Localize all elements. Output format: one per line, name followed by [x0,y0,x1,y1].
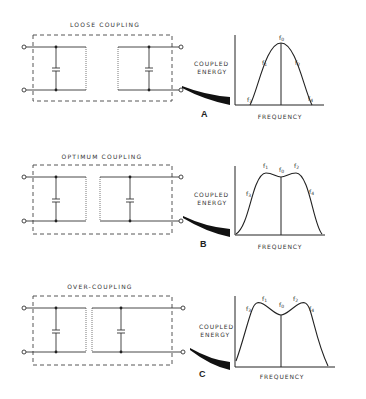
coupling-diagram: LOOSE COUPLING A f0 f1 f2 [0,0,366,399]
wedge-pointer-icon [183,216,230,237]
terminal-icon [181,350,185,354]
circuit-c [22,296,185,365]
capacitor-icon [145,68,153,71]
circuit-a [22,35,183,101]
capacitor-icon [52,68,60,71]
panel-letter: C [199,369,206,379]
capacitor-icon [52,199,60,202]
terminal-icon [179,219,183,223]
y-axis-label: ENERGY [197,199,227,206]
f2-label: f2 [294,162,299,170]
f4-label: f4 [308,95,313,103]
y-axis-label: COUPLED [194,191,229,198]
f0-label: f0 [279,34,284,42]
terminal-icon [179,45,183,49]
x-axis-label: FREQUENCY [258,113,303,120]
graph-c: f1 f0 f2 f3 f4 COUPLED ENERGY FREQUENCY [199,295,335,380]
y-axis-label: COUPLED [194,60,229,67]
f3-label: f3 [246,305,251,313]
terminal-icon [22,306,26,310]
f3-label: f3 [247,96,252,104]
panel-title: OVER-COUPLING [67,283,132,290]
circuit-b [22,165,183,234]
terminal-icon [22,45,26,49]
panel-title: OPTIMUM COUPLING [62,153,143,160]
f4-label: f4 [309,188,314,196]
panel-letter: A [201,109,208,119]
wedge-pointer-icon [182,86,230,105]
terminal-icon [22,175,26,179]
terminal-icon [22,219,26,223]
panel-a: LOOSE COUPLING A f0 f1 f2 [22,21,324,120]
f4-label: f4 [309,305,314,313]
capacitor-icon [117,330,125,333]
panel-letter: B [200,239,207,249]
wedge-pointer-icon [190,348,230,370]
panel-c: OVER-COUPLING C f1 f0 f2 f3 f4 [22,283,335,380]
terminal-icon [181,306,185,310]
f1-label: f1 [262,295,267,303]
panel-title: LOOSE COUPLING [70,21,140,28]
f0-label: f0 [279,166,284,174]
f1-label: f1 [263,162,268,170]
f2-label: f2 [293,295,298,303]
capacitor-icon [52,330,60,333]
terminal-icon [179,175,183,179]
x-axis-label: FREQUENCY [260,373,305,380]
shield-box [33,165,172,234]
terminal-icon [22,88,26,92]
f3-label: f3 [246,190,251,198]
f2-label: f2 [295,59,300,67]
capacitor-icon [126,199,134,202]
graph-a: f0 f1 f2 f3 f4 COUPLED ENERGY FREQUENCY [194,34,324,120]
terminal-icon [179,88,183,92]
panel-b: OPTIMUM COUPLING B f1 f0 f2 f3 f4 [22,153,325,250]
x-axis-label: FREQUENCY [258,243,303,250]
terminal-icon [22,350,26,354]
f0-label: f0 [279,301,284,309]
graph-b: f1 f0 f2 f3 f4 COUPLED ENERGY FREQUENCY [194,162,325,250]
y-axis-label: COUPLED [199,323,234,330]
shield-box [33,296,172,365]
y-axis-label: ENERGY [200,331,230,338]
y-axis-label: ENERGY [197,68,227,75]
